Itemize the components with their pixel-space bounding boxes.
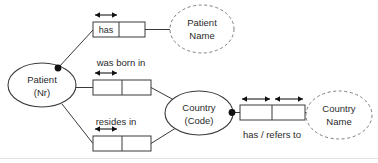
connector-patient-to-resides-in [62,104,93,144]
predicate-label-was-born-in: was born in [96,57,146,68]
entity-country[interactable]: Country (Code) [165,91,233,135]
predicate-label-resides-in: resides in [96,116,137,127]
fact-was-born-in[interactable]: was born in [93,57,151,95]
fact-resides-in[interactable]: resides in [93,116,151,151]
entity-patient-shape[interactable] [8,63,76,107]
uniqueness-bar-has [95,12,117,17]
entity-patient-key: (Nr) [34,87,50,98]
orm-diagram-canvas: has was born in resides in [0,0,378,163]
mandatory-dot-patient [55,65,62,72]
entity-patient-name: Patient [27,74,57,85]
fact-has-patient-name[interactable]: has [93,12,145,37]
fact-has-refers-to[interactable]: has / refers to [240,96,305,139]
value-country-name-line1: Country [322,103,356,114]
uniqueness-bar-has-refers-to-role2 [275,96,303,101]
value-country-name-line2: Name [326,116,351,127]
uniqueness-bar-was-born-in [95,70,117,75]
entity-country-name: Country [182,102,216,113]
value-type-country-name[interactable]: Country Name [306,91,372,139]
connector-patient-to-has [58,30,93,68]
entity-country-shape[interactable] [165,91,233,135]
connector-was-born-in-to-country [151,88,174,101]
value-patient-name-line1: Patient [187,17,217,28]
role-label-has: has [99,25,114,35]
value-patient-name-line2: Name [189,30,214,41]
mandatory-dot-country [229,109,236,116]
predicate-label-has-refers-to: has / refers to [243,129,301,140]
entity-country-key: (Code) [184,115,213,126]
entity-patient[interactable]: Patient (Nr) [8,63,76,107]
uniqueness-bar-has-refers-to-role1 [242,96,270,101]
value-type-patient-name[interactable]: Patient Name [170,5,234,53]
uniqueness-bar-resides-in [95,126,117,131]
